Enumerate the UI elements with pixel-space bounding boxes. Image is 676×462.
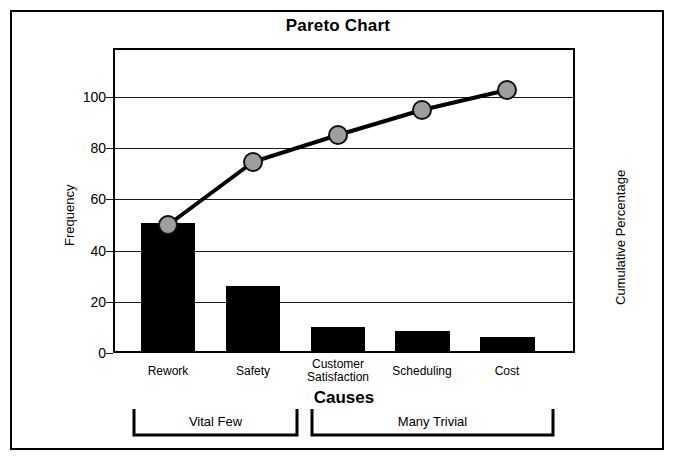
y-tick-label-40: 40 — [60, 244, 106, 258]
bar-rework — [141, 223, 195, 351]
y-tick-mark-80 — [106, 148, 113, 149]
y-tick-label-100: 100 — [60, 90, 106, 104]
x-tick-label-cost: Cost — [457, 365, 557, 378]
gridline-60 — [115, 199, 573, 200]
x-tick-label-safety-line1: Safety — [236, 364, 270, 378]
y-tick-label-20: 20 — [60, 295, 106, 309]
y-tick-mark-100 — [106, 97, 113, 98]
secondary-y-axis-title: Cumulative Percentage — [613, 170, 628, 305]
bar-scheduling — [395, 331, 450, 351]
y-tick-mark-40 — [106, 251, 113, 252]
gridline-80 — [115, 148, 573, 149]
x-tick-label-cost-line1: Cost — [495, 364, 520, 378]
x-tick-label-customer-satisfaction-line1: Customer — [312, 357, 364, 371]
x-tick-label-customer-satisfaction-line2: Satisfaction — [307, 370, 369, 384]
bracket-label-many-trivial: Many Trivial — [312, 414, 553, 429]
gridline-100 — [115, 97, 573, 98]
page-title: Pareto Chart — [0, 16, 676, 36]
chart-canvas: Pareto Chart Frequency Cumulative Percen… — [0, 0, 676, 462]
x-axis-title: Causes — [113, 388, 575, 408]
y-tick-mark-60 — [106, 199, 113, 200]
y-tick-mark-0 — [106, 353, 113, 354]
plot-area — [113, 48, 575, 353]
bar-safety — [226, 286, 280, 351]
y-tick-label-60: 60 — [60, 192, 106, 206]
bar-customer-satisfaction — [311, 327, 365, 351]
y-tick-mark-20 — [106, 302, 113, 303]
bracket-label-vital-few: Vital Few — [134, 414, 297, 429]
bar-cost — [480, 337, 535, 351]
y-tick-label-0: 0 — [60, 346, 106, 360]
x-tick-label-scheduling-line1: Scheduling — [392, 364, 451, 378]
y-tick-label-80: 80 — [60, 141, 106, 155]
x-tick-label-rework-line1: Rework — [148, 364, 189, 378]
